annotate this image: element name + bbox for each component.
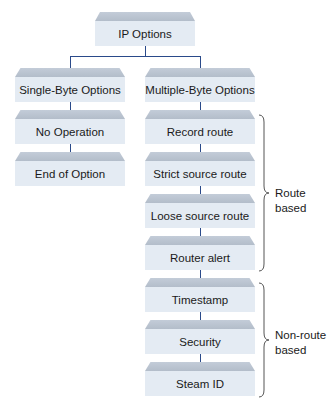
- node-label: Timestamp: [145, 287, 255, 312]
- node-bevel: [145, 362, 255, 371]
- connector-right-2: [200, 144, 201, 152]
- connector-left-drop: [70, 56, 71, 68]
- node-label: Steam ID: [145, 371, 255, 396]
- connector-right-3: [200, 186, 201, 194]
- record-route-node: Record route: [145, 110, 255, 144]
- end-of-option-node: End of Option: [15, 152, 125, 186]
- non-route-based-brace: [258, 282, 272, 398]
- route-based-label: Route based: [275, 186, 306, 216]
- connector-right-drop: [200, 56, 201, 68]
- connector-left-1: [70, 102, 71, 110]
- node-bevel: [145, 194, 255, 203]
- node-bevel: [145, 278, 255, 287]
- security-node: Security: [145, 320, 255, 354]
- node-bevel: [145, 236, 255, 245]
- group-label-line2: based: [275, 343, 326, 358]
- node-bevel: [145, 320, 255, 329]
- connector-right-4: [200, 228, 201, 236]
- node-label: No Operation: [15, 119, 125, 144]
- no-operation-node: No Operation: [15, 110, 125, 144]
- connector-root-down: [145, 46, 146, 56]
- strict-source-route-node: Strict source route: [145, 152, 255, 186]
- connector-right-1: [200, 102, 201, 110]
- node-label: Multiple-Byte Options: [145, 77, 255, 102]
- single-byte-options-node: Single-Byte Options: [15, 68, 125, 102]
- root-node: IP Options: [95, 12, 195, 46]
- node-bevel: [15, 152, 125, 161]
- root-label: IP Options: [95, 21, 195, 46]
- node-label: Loose source route: [145, 203, 255, 228]
- node-bevel: [145, 110, 255, 119]
- timestamp-node: Timestamp: [145, 278, 255, 312]
- group-label-line2: based: [275, 201, 306, 216]
- connector-left-2: [70, 144, 71, 152]
- multiple-byte-options-node: Multiple-Byte Options: [145, 68, 255, 102]
- node-label: Security: [145, 329, 255, 354]
- node-bevel: [95, 12, 195, 21]
- connector-right-5: [200, 270, 201, 278]
- steam-id-node: Steam ID: [145, 362, 255, 396]
- node-label: Single-Byte Options: [15, 77, 125, 102]
- node-bevel: [15, 110, 125, 119]
- group-label-line1: Non-route: [275, 328, 326, 343]
- connector-right-6: [200, 312, 201, 320]
- group-label-line1: Route: [275, 186, 306, 201]
- node-label: End of Option: [15, 161, 125, 186]
- node-bevel: [15, 68, 125, 77]
- connector-root-horizontal: [70, 56, 200, 57]
- node-bevel: [145, 152, 255, 161]
- node-label: Router alert: [145, 245, 255, 270]
- router-alert-node: Router alert: [145, 236, 255, 270]
- non-route-based-label: Non-route based: [275, 328, 326, 358]
- loose-source-route-node: Loose source route: [145, 194, 255, 228]
- connector-right-7: [200, 354, 201, 362]
- route-based-brace: [258, 114, 272, 272]
- node-bevel: [145, 68, 255, 77]
- node-label: Record route: [145, 119, 255, 144]
- node-label: Strict source route: [145, 161, 255, 186]
